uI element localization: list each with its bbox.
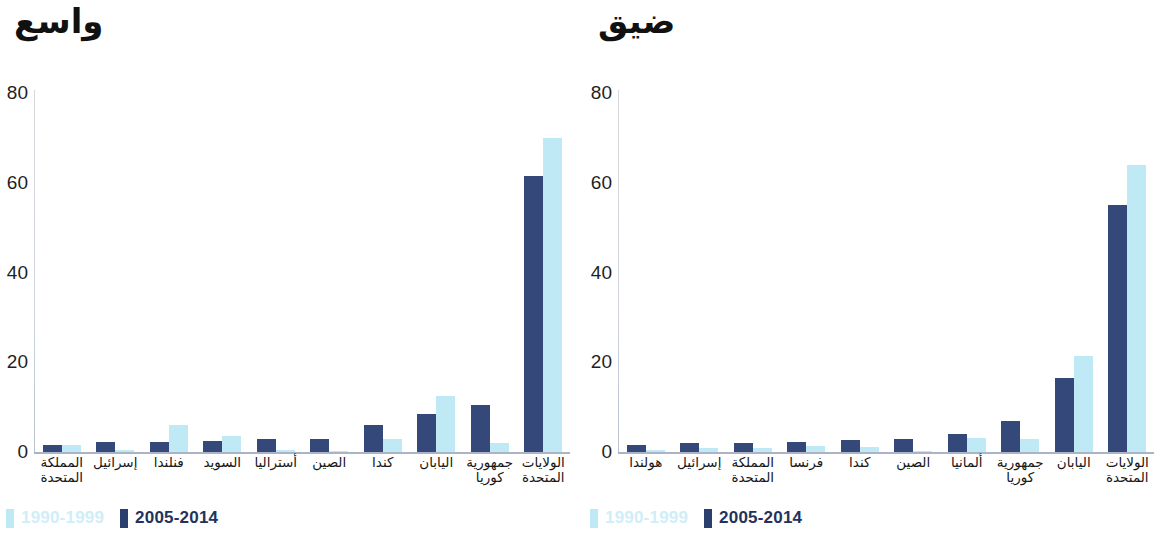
bar-series2 [680, 443, 699, 452]
bar-group [142, 82, 196, 452]
x-axis-label: كندا [833, 455, 887, 470]
legend-narrow: 1990-1999 2005-2014 [590, 508, 802, 528]
x-axis-label: إسرائيل [89, 455, 143, 470]
x-axis-label: ألمانيا [940, 455, 994, 470]
x-axis-label: السويد [196, 455, 250, 470]
bar-group [1101, 82, 1155, 452]
bar-series2 [894, 439, 913, 452]
bar-group [833, 82, 887, 452]
bar-series2 [257, 439, 276, 452]
bar-group [303, 82, 357, 452]
bar-series1 [276, 450, 295, 452]
y-axis-tick: 20 [591, 351, 612, 373]
y-axis-tick: 0 [601, 441, 612, 463]
plot-area-broad: 020406080 [0, 82, 584, 460]
bar-series2 [310, 439, 329, 452]
y-axis-tick: 60 [591, 172, 612, 194]
bar-series2 [417, 414, 436, 452]
legend-item-2005-2014: 2005-2014 [120, 508, 218, 528]
bar-series1 [646, 450, 665, 452]
bar-series2 [948, 434, 967, 452]
y-axis-tick: 40 [7, 262, 28, 284]
x-axis-label: الصين [887, 455, 941, 470]
y-axis-tick: 20 [7, 351, 28, 373]
plot-area-narrow: 020406080 [584, 82, 1168, 460]
x-axis-label: فنلندا [142, 455, 196, 470]
bar-group [726, 82, 780, 452]
x-axis-label: هولندا [619, 455, 673, 470]
legend-label: 1990-1999 [21, 508, 104, 528]
bar-series2 [841, 440, 860, 452]
bar-group [673, 82, 727, 452]
bar-series2 [471, 405, 490, 452]
bar-series1 [1074, 356, 1093, 452]
bar-series1 [1127, 165, 1146, 452]
bar-group [994, 82, 1048, 452]
bar-series1 [329, 451, 348, 452]
legend-swatch-icon [704, 509, 712, 528]
bar-group [463, 82, 517, 452]
legend-swatch-icon [6, 509, 14, 528]
bar-series2 [734, 443, 753, 452]
bar-group [619, 82, 673, 452]
bar-series1 [1020, 439, 1039, 452]
bar-series1 [222, 436, 241, 452]
bar-series1 [115, 450, 134, 452]
legend-broad: 1990-1999 2005-2014 [6, 508, 218, 528]
y-axis-tick: 0 [17, 441, 28, 463]
bar-series2 [524, 176, 543, 452]
x-axis-label: الولايات المتحدة [517, 455, 571, 485]
x-axis-label: جمهورية كوريا [994, 455, 1048, 485]
bar-series2 [150, 442, 169, 452]
bar-series1 [62, 445, 81, 452]
legend-item-1990-1999: 1990-1999 [6, 508, 104, 528]
bar-group [780, 82, 834, 452]
legend-item-1990-1999: 1990-1999 [590, 508, 688, 528]
y-axis-broad: 020406080 [0, 82, 34, 460]
y-axis-tick: 80 [591, 82, 612, 104]
bar-groups-narrow [619, 82, 1154, 452]
bar-series1 [967, 438, 986, 452]
bar-group [249, 82, 303, 452]
bar-group [35, 82, 89, 452]
bar-group [410, 82, 464, 452]
x-axis-label: كندا [356, 455, 410, 470]
bar-series2 [787, 442, 806, 452]
bar-group [887, 82, 941, 452]
legend-item-2005-2014: 2005-2014 [704, 508, 802, 528]
bar-series2 [627, 445, 646, 452]
legend-label: 2005-2014 [135, 508, 218, 528]
y-axis-tick: 40 [591, 262, 612, 284]
bar-group [1047, 82, 1101, 452]
x-axis-labels-broad: الولايات المتحدةجمهورية كوريااليابانكندا… [35, 455, 570, 513]
chart-panel-narrow: ضيق 020406080 الولايات المتحدةاليابانجمه… [584, 0, 1168, 535]
bar-series2 [1055, 378, 1074, 452]
legend-label: 2005-2014 [719, 508, 802, 528]
y-axis-tick: 60 [7, 172, 28, 194]
x-axis-label: الولايات المتحدة [1101, 455, 1155, 485]
bar-series1 [860, 447, 879, 452]
x-axis-label: فرنسا [780, 455, 834, 470]
legend-swatch-icon [590, 509, 598, 528]
bar-group [196, 82, 250, 452]
x-axis-label: جمهورية كوريا [463, 455, 517, 485]
x-axis-label: إسرائيل [673, 455, 727, 470]
bar-series1 [383, 439, 402, 452]
chart-page: واسع 020406080 الولايات المتحدةجمهورية ك… [0, 0, 1169, 535]
x-axis-label: الصين [303, 455, 357, 470]
bar-group [517, 82, 571, 452]
bar-series1 [490, 443, 509, 452]
bar-series1 [806, 446, 825, 452]
bar-group [940, 82, 994, 452]
bar-group [89, 82, 143, 452]
x-axis-label: اليابان [1047, 455, 1101, 470]
chart-title-broad: واسع [14, 4, 103, 38]
x-axis-label: المملكة المتحدة [35, 455, 89, 485]
chart-panel-broad: واسع 020406080 الولايات المتحدةجمهورية ك… [0, 0, 584, 535]
legend-swatch-icon [120, 509, 128, 528]
x-axis-label: اليابان [410, 455, 464, 470]
bar-series1 [169, 425, 188, 452]
bar-group [356, 82, 410, 452]
bar-series1 [753, 448, 772, 452]
x-axis-label: أستراليا [249, 455, 303, 470]
